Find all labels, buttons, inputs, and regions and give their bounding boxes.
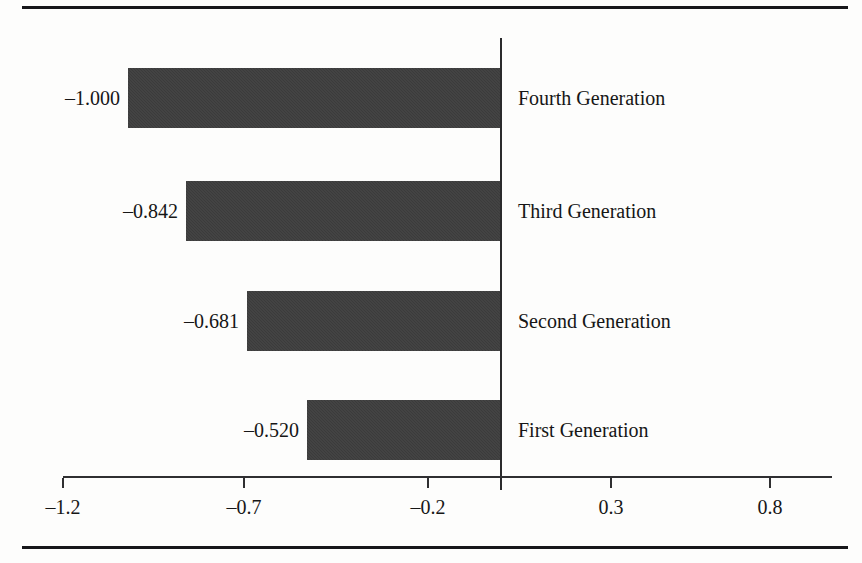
- x-tick-mark-5: [769, 478, 771, 488]
- x-tick-mark-1: [62, 478, 64, 488]
- bar-value-second-generation: –0.681: [147, 311, 239, 331]
- x-tick-label-1: –1.2: [46, 496, 81, 518]
- bar-third-generation: [186, 181, 500, 241]
- bar-chart-figure: –1.000 Fourth Generation –0.842 Third Ge…: [0, 0, 862, 563]
- bar-value-first-generation: –0.520: [207, 420, 299, 440]
- bottom-rule-divider: [22, 546, 848, 549]
- bar-first-generation: [307, 400, 500, 460]
- x-tick-label-4: 0.3: [599, 496, 624, 518]
- zero-baseline: [500, 38, 502, 490]
- bar-second-generation: [247, 291, 500, 351]
- x-tick-label-2: –0.7: [227, 496, 262, 518]
- x-tick-mark-2: [243, 478, 245, 488]
- x-tick-label-5: 0.8: [758, 496, 783, 518]
- bar-value-third-generation: –0.842: [86, 201, 178, 221]
- x-tick-label-3: –0.2: [411, 496, 446, 518]
- bar-label-fourth-generation: Fourth Generation: [518, 88, 665, 108]
- x-axis-line: [63, 476, 832, 478]
- bar-fourth-generation: [128, 68, 500, 128]
- bar-label-first-generation: First Generation: [518, 420, 649, 440]
- bar-label-third-generation: Third Generation: [518, 201, 656, 221]
- x-tick-mark-4: [610, 478, 612, 488]
- plot-area: –1.000 Fourth Generation –0.842 Third Ge…: [0, 0, 862, 563]
- bar-value-fourth-generation: –1.000: [28, 88, 120, 108]
- bar-label-second-generation: Second Generation: [518, 311, 671, 331]
- x-tick-mark-3: [427, 478, 429, 488]
